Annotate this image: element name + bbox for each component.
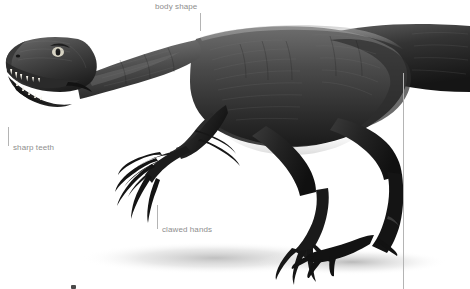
leader-line-body-shape — [200, 13, 201, 31]
label-body-shape: body shape — [155, 2, 197, 11]
label-sharp-teeth: sharp teeth — [13, 143, 54, 152]
figure-canvas: body shape sharp teeth clawed hands — [0, 0, 470, 289]
leader-line-tail — [403, 73, 404, 289]
bottom-caption-marker — [71, 285, 76, 289]
leader-line-sharp-teeth — [8, 127, 9, 146]
nostril — [16, 54, 20, 57]
leader-line-clawed-hands — [157, 205, 158, 229]
dinosaur-illustration — [0, 0, 470, 289]
label-clawed-hands: clawed hands — [162, 225, 212, 234]
